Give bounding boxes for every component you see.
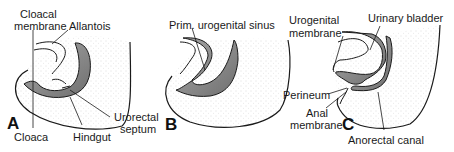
panel-letter-c: C — [342, 116, 354, 133]
label-anal-membrane-line1: Anal — [306, 107, 328, 119]
label-cloaca: Cloaca — [14, 131, 48, 143]
label-perineum: Perineum — [283, 89, 330, 101]
label-urorectal-septum-line1: Urorectal — [114, 111, 159, 123]
panel-b-drawing — [165, 38, 290, 128]
label-urogenital-membrane-line2: membrane — [289, 27, 342, 39]
label-urinary-bladder: Urinary bladder — [368, 12, 443, 24]
label-anal-membrane-line2: membrane — [290, 119, 343, 131]
label-urogenital-membrane-line1: Urogenital — [289, 14, 339, 26]
panel-letter-b: B — [165, 116, 177, 133]
panel-letter-a: A — [7, 115, 19, 132]
label-allantois: Allantois — [69, 20, 111, 32]
label-prim-urogenital-sinus: Prim. urogenital sinus — [169, 19, 275, 31]
label-urorectal-septum-line2: septum — [120, 123, 156, 135]
label-cloacal-membrane-line2: membrane — [14, 20, 67, 32]
label-anorectal-canal: Anorectal canal — [348, 134, 424, 146]
label-hindgut: Hindgut — [73, 131, 111, 143]
label-cloacal-membrane-line1: Cloacal — [20, 8, 57, 20]
panel-c-drawing — [330, 25, 440, 128]
